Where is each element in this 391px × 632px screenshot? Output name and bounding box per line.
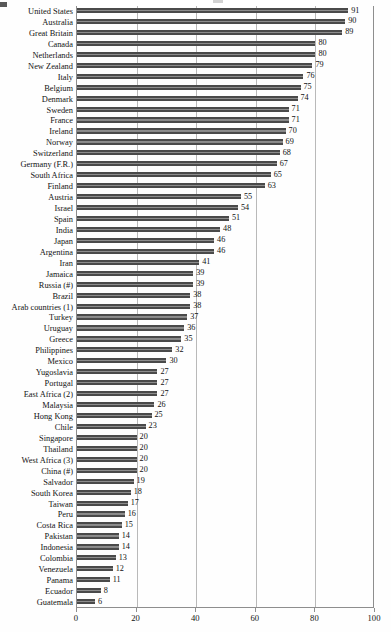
bar-value-label: 39 [196, 267, 204, 278]
category-label: China (#) [0, 466, 73, 477]
bar [77, 490, 131, 495]
category-label: Costa Rica [0, 520, 73, 531]
category-label: West Africa (3) [0, 455, 73, 466]
bar-value-label: 90 [348, 15, 356, 26]
bar [77, 194, 241, 199]
bar-row: 27 [77, 389, 373, 400]
bar-value-label: 48 [223, 223, 231, 234]
category-label: Great Britain [0, 28, 73, 39]
bar [77, 358, 166, 363]
bar-row: 71 [77, 105, 373, 116]
category-label: Philippines [0, 345, 73, 356]
bar-value-label: 27 [160, 388, 168, 399]
bar [77, 468, 137, 473]
bar-value-label: 8 [104, 585, 108, 596]
bar-value-label: 30 [169, 355, 177, 366]
bar-value-label: 20 [140, 464, 148, 475]
bar-value-label: 39 [196, 278, 204, 289]
bar-row: 8 [77, 586, 373, 597]
bar [77, 150, 280, 155]
bar [77, 205, 238, 210]
bar [77, 249, 214, 254]
scan-artifact-secondary-icon [213, 0, 223, 3]
bar [77, 533, 119, 538]
bar-value-label: 68 [283, 147, 291, 158]
x-tick-0 [76, 608, 77, 612]
bar [77, 85, 301, 90]
category-label: Thailand [0, 444, 73, 455]
category-label: Mexico [0, 356, 73, 367]
category-label: Malaysia [0, 400, 73, 411]
bar-value-label: 91 [351, 5, 359, 16]
value-axis: 020406080100 [76, 608, 374, 628]
bar [77, 128, 286, 133]
bar [77, 30, 342, 35]
bar-row: 76 [77, 72, 373, 83]
bar [77, 380, 157, 385]
bar-value-label: 75 [304, 81, 312, 92]
bar-row: 23 [77, 422, 373, 433]
category-label: Norway [0, 137, 73, 148]
bar-row: 38 [77, 291, 373, 302]
bar-row: 38 [77, 302, 373, 313]
category-label: Ecuador [0, 586, 73, 597]
bar [77, 172, 271, 177]
bar [77, 282, 193, 287]
bar-row: 80 [77, 50, 373, 61]
bar-value-label: 14 [122, 541, 130, 552]
bar-row: 36 [77, 323, 373, 334]
bar-row: 16 [77, 509, 373, 520]
bar-value-label: 6 [98, 596, 102, 607]
bar-value-label: 46 [217, 234, 225, 245]
bar [77, 117, 289, 122]
category-label: Canada [0, 39, 73, 50]
category-label: Panama [0, 575, 73, 586]
bar [77, 511, 125, 516]
bar-row: 54 [77, 203, 373, 214]
bar-value-label: 80 [318, 48, 326, 59]
bar [77, 107, 289, 112]
bar [77, 544, 119, 549]
bar-value-label: 35 [184, 333, 192, 344]
bar [77, 41, 315, 46]
bar-value-label: 20 [140, 431, 148, 442]
category-label: Indonesia [0, 542, 73, 553]
category-label: South Africa [0, 170, 73, 181]
category-label: Portugal [0, 378, 73, 389]
x-tick-label-0: 0 [74, 613, 78, 624]
bar [77, 183, 265, 188]
category-label: New Zealand [0, 61, 73, 72]
bar [77, 435, 137, 440]
bar-value-label: 38 [193, 289, 201, 300]
category-label: Singapore [0, 433, 73, 444]
bar [77, 96, 298, 101]
category-label: Salvador [0, 477, 73, 488]
bar-value-label: 89 [345, 26, 353, 37]
category-label: Arab countries (1) [0, 302, 73, 313]
bar-row: 63 [77, 181, 373, 192]
bar-row: 74 [77, 94, 373, 105]
bar [77, 446, 137, 451]
bar-row: 20 [77, 455, 373, 466]
bar-value-label: 65 [274, 169, 282, 180]
bar [77, 391, 157, 396]
bar-row: 37 [77, 312, 373, 323]
bar-row: 46 [77, 247, 373, 258]
bar-chart: United StatesAustraliaGreat BritainCanad… [0, 0, 391, 632]
category-label: Taiwan [0, 499, 73, 510]
bar [77, 424, 146, 429]
bar-row: 90 [77, 17, 373, 28]
category-label: Austria [0, 192, 73, 203]
bar-value-label: 55 [244, 191, 252, 202]
bar-row: 79 [77, 61, 373, 72]
bar-value-label: 13 [119, 552, 127, 563]
bar [77, 325, 184, 330]
bar [77, 413, 152, 418]
bar-value-label: 25 [155, 409, 163, 420]
bar [77, 369, 157, 374]
bar [77, 457, 137, 462]
bar [77, 599, 95, 604]
bar-value-label: 18 [134, 486, 142, 497]
bar-value-label: 80 [318, 37, 326, 48]
bar-value-label: 74 [301, 92, 309, 103]
